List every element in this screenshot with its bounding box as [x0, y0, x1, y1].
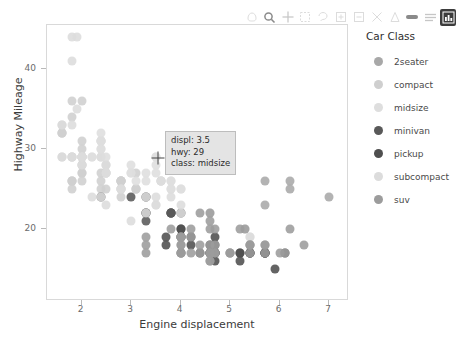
data-point[interactable]: [72, 33, 81, 42]
data-point[interactable]: [97, 177, 106, 186]
hover-compare-icon[interactable]: [422, 9, 438, 26]
data-point[interactable]: [206, 249, 215, 258]
data-point[interactable]: [67, 153, 76, 162]
data-point[interactable]: [176, 185, 185, 194]
legend-item-midsize[interactable]: midsize: [366, 97, 458, 118]
data-point[interactable]: [87, 193, 96, 202]
data-point[interactable]: [161, 241, 170, 250]
data-point[interactable]: [77, 177, 86, 186]
data-point[interactable]: [186, 233, 195, 242]
data-point[interactable]: [142, 233, 151, 242]
data-point[interactable]: [285, 225, 294, 234]
data-point[interactable]: [186, 249, 195, 258]
data-point[interactable]: [211, 225, 220, 234]
data-point[interactable]: [142, 249, 151, 258]
data-point[interactable]: [260, 241, 269, 250]
data-point[interactable]: [226, 249, 235, 258]
x-tick-label: 2: [69, 304, 93, 314]
data-point[interactable]: [77, 153, 86, 162]
data-point[interactable]: [57, 153, 66, 162]
data-point[interactable]: [72, 105, 81, 114]
data-point[interactable]: [236, 257, 245, 266]
legend-item-pickup[interactable]: pickup: [366, 143, 458, 164]
data-point[interactable]: [186, 225, 195, 234]
data-point[interactable]: [245, 241, 254, 250]
zoom-out-icon[interactable]: [351, 9, 367, 26]
y-axis-label: Highway Mileage: [12, 55, 25, 195]
data-point[interactable]: [206, 209, 215, 218]
toggle-spike-lines-icon[interactable]: [404, 9, 420, 26]
data-point[interactable]: [206, 257, 215, 266]
data-point[interactable]: [280, 249, 289, 258]
data-point[interactable]: [176, 233, 185, 242]
data-point[interactable]: [127, 169, 136, 178]
data-table-icon[interactable]: [440, 9, 456, 26]
data-point[interactable]: [325, 193, 334, 202]
data-point[interactable]: [260, 249, 269, 258]
hover-crosshair-icon: [152, 152, 165, 165]
data-point[interactable]: [176, 241, 185, 250]
data-point[interactable]: [196, 249, 205, 258]
pan-icon[interactable]: [244, 9, 260, 26]
zoom-icon[interactable]: [262, 9, 278, 26]
data-point[interactable]: [260, 177, 269, 186]
zoom-in-icon[interactable]: [333, 9, 349, 26]
legend-item-subcompact[interactable]: subcompact: [366, 166, 458, 187]
crosshair-icon[interactable]: [280, 9, 296, 26]
data-point[interactable]: [176, 201, 185, 210]
data-point[interactable]: [127, 217, 136, 226]
data-point[interactable]: [196, 209, 205, 218]
data-point[interactable]: [206, 217, 215, 226]
data-point[interactable]: [166, 177, 175, 186]
data-point[interactable]: [67, 185, 76, 194]
legend-swatch-icon: [374, 149, 383, 158]
data-point[interactable]: [176, 249, 185, 258]
data-point[interactable]: [151, 201, 160, 210]
data-point[interactable]: [142, 177, 151, 186]
legend-item-compact[interactable]: compact: [366, 74, 458, 95]
data-point[interactable]: [67, 177, 76, 186]
data-point[interactable]: [57, 121, 66, 130]
data-point[interactable]: [156, 177, 165, 186]
data-point[interactable]: [67, 121, 76, 130]
data-point[interactable]: [166, 193, 175, 202]
data-point[interactable]: [117, 193, 126, 202]
data-point[interactable]: [166, 225, 175, 234]
y-tick-label: 40: [2, 63, 36, 73]
data-point[interactable]: [270, 265, 279, 274]
data-point[interactable]: [260, 201, 269, 210]
legend-swatch-icon: [374, 57, 383, 66]
data-point[interactable]: [97, 137, 106, 146]
reset-axes-icon[interactable]: [387, 9, 403, 26]
legend-item-suv[interactable]: suv: [366, 189, 458, 210]
data-point[interactable]: [117, 185, 126, 194]
data-point[interactable]: [77, 161, 86, 170]
autoscale-icon[interactable]: [369, 9, 385, 26]
legend-item-minivan[interactable]: minivan: [366, 120, 458, 141]
data-point[interactable]: [57, 129, 66, 138]
data-point[interactable]: [300, 241, 309, 250]
data-point[interactable]: [176, 209, 185, 218]
lasso-select-icon[interactable]: [315, 9, 331, 26]
data-point[interactable]: [102, 169, 111, 178]
legend-item-label: pickup: [394, 149, 424, 159]
data-point[interactable]: [102, 201, 111, 210]
legend-item-2seater[interactable]: 2seater: [366, 51, 458, 72]
hover-tooltip: displ: 3.5 hwy: 29 class: midsize: [165, 131, 236, 175]
box-select-icon[interactable]: [297, 9, 313, 26]
data-point[interactable]: [127, 193, 136, 202]
x-axis-label: Engine displacement: [46, 318, 348, 331]
data-point[interactable]: [196, 241, 205, 250]
data-point[interactable]: [87, 153, 96, 162]
data-point[interactable]: [285, 185, 294, 194]
data-point[interactable]: [241, 225, 250, 234]
data-point[interactable]: [67, 57, 76, 66]
x-tick-mark: [229, 300, 230, 305]
data-point[interactable]: [142, 209, 151, 218]
data-point[interactable]: [142, 193, 151, 202]
data-point[interactable]: [166, 209, 175, 218]
data-point[interactable]: [132, 177, 141, 186]
data-point[interactable]: [245, 249, 254, 258]
y-tick-label: 20: [2, 223, 36, 233]
data-point[interactable]: [142, 217, 151, 226]
